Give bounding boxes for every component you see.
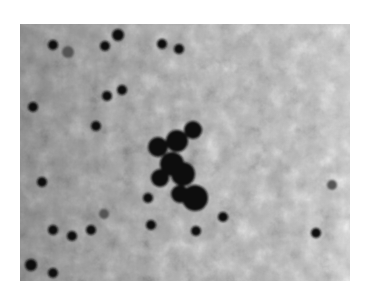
- particle: [191, 226, 201, 236]
- cluster-particle: [171, 162, 195, 186]
- particle: [100, 41, 110, 51]
- particle: [112, 29, 124, 41]
- cluster-particle: [171, 185, 189, 203]
- micrograph-svg: [20, 24, 350, 281]
- particle: [157, 39, 167, 49]
- particle: [28, 102, 38, 112]
- particle: [86, 225, 96, 235]
- particle: [37, 177, 47, 187]
- particle: [174, 44, 184, 54]
- particle: [62, 46, 74, 58]
- background-shading: [20, 24, 350, 281]
- particle: [102, 91, 112, 101]
- micrograph-image: [20, 24, 350, 281]
- particle: [218, 212, 228, 222]
- cluster-particle: [184, 121, 202, 139]
- cluster-particle: [151, 169, 169, 187]
- particle: [91, 121, 101, 131]
- particle: [143, 193, 153, 203]
- particle: [48, 40, 58, 50]
- particle: [48, 268, 58, 278]
- particle: [327, 180, 337, 190]
- particle: [25, 259, 37, 271]
- particle: [117, 85, 127, 95]
- cluster-particle: [148, 137, 168, 157]
- particle: [99, 209, 109, 219]
- particle: [311, 228, 321, 238]
- particle: [146, 220, 156, 230]
- particle: [48, 225, 58, 235]
- particle: [67, 231, 77, 241]
